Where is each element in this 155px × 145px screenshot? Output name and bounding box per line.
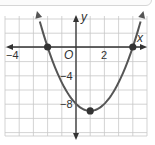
point-vertex <box>87 107 94 114</box>
x-tick-label-neg4: −4 <box>6 49 19 61</box>
x-tick-label-2: 2 <box>101 49 107 61</box>
y-tick-label-neg4: −4 <box>60 70 73 82</box>
y-axis-label: y <box>80 10 88 24</box>
point-x-intercept-right <box>129 43 136 50</box>
curve-arrow-icon <box>35 11 42 19</box>
parabola-graph: y x O −4 2 −4 −8 <box>0 0 155 145</box>
x-axis-label: x <box>136 31 144 45</box>
tick-labels: y x O −4 2 −4 −8 <box>6 10 144 110</box>
axes <box>6 15 147 140</box>
origin-label: O <box>64 48 73 62</box>
curve-arrow-icon <box>138 11 145 19</box>
point-x-intercept-left <box>44 43 51 50</box>
y-tick-label-neg8: −8 <box>60 98 73 110</box>
